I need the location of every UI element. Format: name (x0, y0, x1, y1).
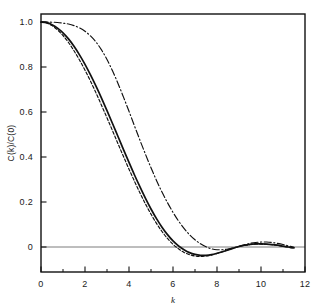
y-tick-label: 0 (28, 242, 33, 252)
curve-dashed (41, 22, 294, 256)
curve-solid (41, 22, 294, 255)
x-axis-tick-labels: 024681012 (38, 279, 310, 289)
y-tick-label: 0.4 (20, 152, 33, 162)
x-tick-label: 12 (300, 279, 311, 289)
y-axis-tick-labels: 00.20.40.60.81.0 (20, 17, 33, 252)
chart-figure: 024681012 00.20.40.60.81.0 k C(k)/C(0) (0, 0, 320, 308)
y-tick-label: 0.6 (20, 107, 33, 117)
x-tick-label: 4 (126, 279, 131, 289)
axes-frame (41, 14, 305, 272)
x-tick-label: 6 (170, 279, 175, 289)
x-tick-label: 8 (214, 279, 219, 289)
y-tick-label: 0.8 (20, 62, 33, 72)
y-axis-title-text: C(k)/C(0) (6, 125, 16, 162)
x-tick-label: 0 (38, 279, 43, 289)
y-tick-label: 1.0 (20, 17, 33, 27)
plot-frame (41, 14, 305, 272)
y-tick-label: 0.2 (20, 197, 33, 207)
x-axis-title-text: k (171, 295, 176, 305)
correlation-function-plot: 024681012 00.20.40.60.81.0 k C(k)/C(0) (0, 0, 320, 308)
data-curves (41, 22, 294, 256)
x-axis-title: k (171, 295, 176, 305)
y-axis-title: C(k)/C(0) (6, 125, 16, 162)
axis-ticks (41, 22, 305, 272)
curve-dash-dot (41, 22, 294, 250)
x-tick-label: 10 (256, 279, 267, 289)
x-tick-label: 2 (82, 279, 87, 289)
